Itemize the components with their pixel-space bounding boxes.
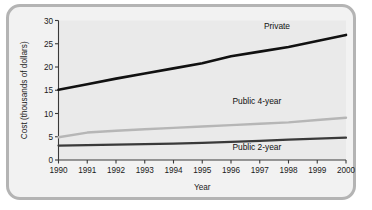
- y-tick-label: 10: [44, 110, 54, 119]
- series-label-public-2-year: Public 2-year: [232, 142, 281, 152]
- figure-card: 051015202530 199019911992199319941995199…: [6, 4, 356, 200]
- chart-svg: 051015202530 199019911992199319941995199…: [9, 7, 359, 203]
- series-label-private: Private: [264, 21, 290, 31]
- y-axis: 051015202530: [44, 17, 59, 166]
- x-tick-label: 1997: [251, 166, 270, 175]
- series-label-public-4-year: Public 4-year: [232, 96, 281, 106]
- x-tick-label: 1999: [308, 166, 327, 175]
- x-tick-label: 1990: [49, 166, 68, 175]
- x-tick-label: 1995: [193, 166, 212, 175]
- x-tick-label: 1991: [78, 166, 97, 175]
- y-tick-label: 25: [44, 40, 54, 49]
- x-axis-title: Year: [194, 183, 211, 192]
- y-tick-label: 20: [44, 63, 54, 72]
- y-tick-label: 5: [48, 133, 53, 142]
- y-tick-label: 30: [44, 17, 54, 26]
- x-axis: 1990199119921993199419951996199719981999…: [49, 160, 355, 175]
- y-tick-label: 15: [44, 86, 54, 95]
- line-chart: 051015202530 199019911992199319941995199…: [9, 7, 359, 203]
- x-tick-label: 1993: [136, 166, 155, 175]
- x-tick-label: 2000: [337, 166, 356, 175]
- x-tick-label: 1994: [164, 166, 183, 175]
- x-tick-label: 1996: [222, 166, 241, 175]
- y-tick-label: 0: [48, 156, 53, 165]
- x-tick-label: 1992: [107, 166, 126, 175]
- y-axis-title: Cost (thousands of dollars): [20, 41, 29, 139]
- x-tick-label: 1998: [279, 166, 298, 175]
